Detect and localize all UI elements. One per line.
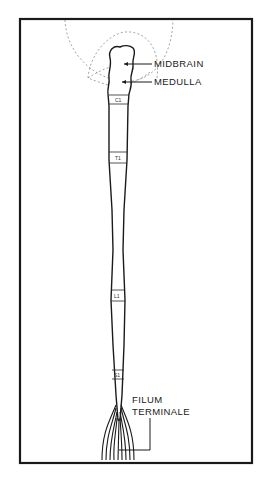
midbrain-label: MIDBRAIN (154, 58, 204, 69)
filum-label-line1: FILUM (132, 394, 163, 405)
label-midbrain: MIDBRAIN (124, 58, 204, 69)
segment-label-c1: C1 (115, 97, 122, 103)
segment-label-s1: S1 (114, 372, 120, 378)
spinal-cord-diagram: C1 T1 L1 S1 MIDBRAIN MEDULLA FI (0, 0, 268, 477)
filum-label-line2: TERMINALE (132, 406, 190, 417)
segment-label-l1: L1 (114, 293, 120, 299)
label-medulla: MEDULLA (122, 76, 202, 87)
filum-terminale-strand (118, 420, 119, 460)
segment-label-t1: T1 (115, 155, 121, 161)
label-filum-terminale: FILUM TERMINALE (119, 394, 190, 450)
medulla-label: MEDULLA (154, 76, 202, 87)
